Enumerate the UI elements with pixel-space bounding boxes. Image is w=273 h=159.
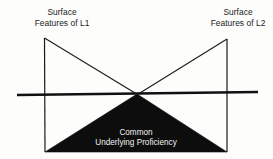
- label-surface-features-l1: Surface Features of L1: [0, 7, 124, 28]
- label-surface-features-l2: Surface Features of L2: [176, 7, 273, 28]
- label-surface-features-l1-line1: Surface: [0, 7, 124, 18]
- l2-diagonal-edge: [138, 39, 228, 95]
- l1-diagonal-edge: [45, 38, 138, 95]
- label-common-underlying-proficiency: Common Underlying Proficiency: [46, 128, 226, 149]
- label-common-underlying-proficiency-line1: Common: [46, 128, 226, 138]
- label-surface-features-l1-line2: Features of L1: [0, 18, 124, 29]
- dual-iceberg-figure: Surface Features of L1 Surface Features …: [0, 0, 273, 159]
- label-common-underlying-proficiency-line2: Underlying Proficiency: [46, 138, 226, 148]
- label-surface-features-l2-line1: Surface: [176, 7, 273, 18]
- waterline: [17, 92, 258, 95]
- label-surface-features-l2-line2: Features of L2: [176, 18, 273, 29]
